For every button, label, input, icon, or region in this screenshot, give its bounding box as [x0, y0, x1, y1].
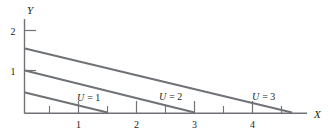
- x-tick-label-4: 4: [250, 119, 255, 130]
- curve-label-u2-symbol: U: [159, 91, 167, 102]
- curve-label-u2: U= 2: [159, 91, 182, 102]
- chart-canvas: Y X 2 1 1 2 3 4 U= 1 U= 2 U= 3: [0, 0, 332, 135]
- x-tick-label-3: 3: [192, 119, 197, 130]
- y-tick-label-1: 1: [11, 66, 16, 77]
- x-tick-label-1: 1: [76, 119, 81, 130]
- y-tick-label-2: 2: [11, 26, 16, 37]
- curve-label-u1: U= 1: [77, 92, 100, 103]
- svg-text:U= 2: U= 2: [159, 91, 182, 102]
- svg-text:U= 3: U= 3: [252, 91, 275, 102]
- indifference-curves: [25, 49, 292, 113]
- y-axis-label: Y: [27, 4, 35, 16]
- curve-label-u3: U= 3: [252, 91, 275, 102]
- curve-label-u1-value: = 1: [87, 92, 100, 103]
- indifference-curve-chart: Y X 2 1 1 2 3 4 U= 1 U= 2 U= 3: [0, 0, 332, 135]
- x-axis-label: X: [313, 108, 322, 120]
- curve-label-u1-symbol: U: [77, 92, 85, 103]
- svg-text:U= 1: U= 1: [77, 92, 100, 103]
- curve-label-u3-symbol: U: [252, 91, 260, 102]
- x-tick-label-2: 2: [134, 119, 139, 130]
- curve-label-u2-value: = 2: [169, 91, 182, 102]
- curve-label-u3-value: = 3: [262, 91, 275, 102]
